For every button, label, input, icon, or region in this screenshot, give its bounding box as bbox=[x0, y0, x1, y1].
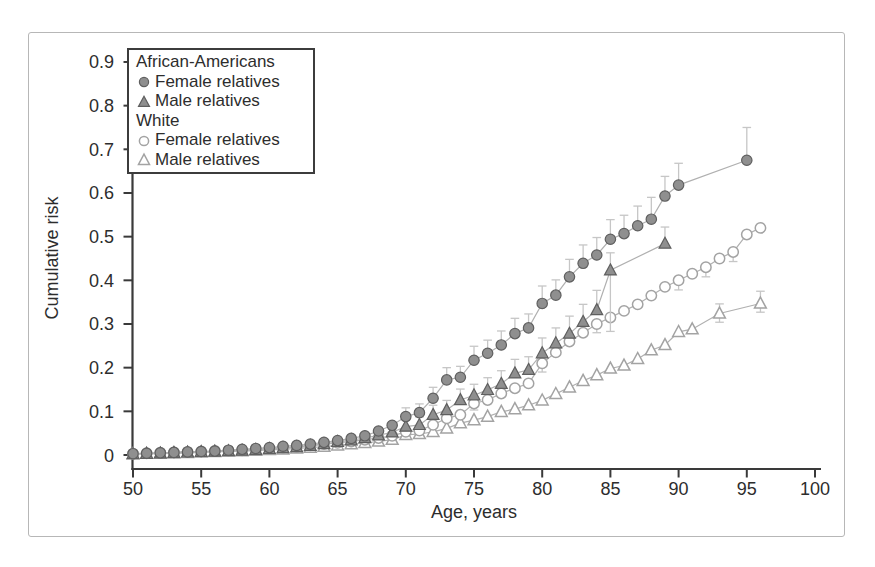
aa-female-point bbox=[742, 155, 752, 165]
aa-male-point bbox=[564, 327, 576, 338]
white-female-point bbox=[523, 378, 533, 388]
legend-item-label: Female relatives bbox=[155, 72, 280, 92]
aa-female-point bbox=[578, 258, 588, 268]
aa-female-point bbox=[469, 355, 479, 365]
white-female-point bbox=[428, 420, 438, 430]
white-female-point bbox=[728, 247, 738, 257]
white-female-point bbox=[673, 275, 683, 285]
aa-female-point bbox=[223, 445, 233, 455]
aa-female-point bbox=[169, 447, 179, 457]
aa-female-point bbox=[482, 348, 492, 358]
y-tick-label: 0.9 bbox=[89, 52, 114, 72]
aa-female-point bbox=[551, 290, 561, 300]
aa-female-point bbox=[264, 442, 274, 452]
x-tick-label: 65 bbox=[328, 479, 348, 499]
white-female-point bbox=[701, 262, 711, 272]
white-male-point bbox=[618, 359, 630, 370]
aa-female-point bbox=[632, 221, 642, 231]
white-female-point bbox=[455, 410, 465, 420]
aa-male-line bbox=[133, 244, 665, 455]
aa-female-point bbox=[291, 440, 301, 450]
aa-male-point bbox=[482, 384, 494, 395]
white-female-point bbox=[592, 319, 602, 329]
aa-female-point bbox=[332, 435, 342, 445]
white-male-point bbox=[686, 323, 698, 334]
aa-female-point bbox=[373, 426, 383, 436]
open-circle-glyph bbox=[139, 136, 148, 145]
x-tick-label: 80 bbox=[532, 479, 552, 499]
white-female-point bbox=[619, 306, 629, 316]
white-female-point bbox=[714, 253, 724, 263]
x-tick-label: 70 bbox=[396, 479, 416, 499]
aa-male-point bbox=[536, 347, 548, 358]
legend-group-header-white: White bbox=[136, 111, 311, 131]
aa-female-point bbox=[196, 446, 206, 456]
legend-item-white-female: Female relatives bbox=[136, 130, 311, 150]
x-tick-label: 75 bbox=[464, 479, 484, 499]
aa-female-point bbox=[360, 431, 370, 441]
y-tick-label: 0.8 bbox=[89, 96, 114, 116]
aa-female-point bbox=[387, 420, 397, 430]
y-tick-label: 0.5 bbox=[89, 227, 114, 247]
white-male-point bbox=[564, 381, 576, 392]
aa-female-point bbox=[128, 448, 138, 458]
aa-male-point bbox=[605, 264, 617, 275]
aa-male-point bbox=[468, 389, 480, 400]
legend: African-Americans Female relatives Male … bbox=[127, 48, 315, 174]
aa-female-point bbox=[564, 272, 574, 282]
x-tick-label: 50 bbox=[123, 479, 143, 499]
x-tick-label: 100 bbox=[800, 479, 830, 499]
y-tick-label: 0.3 bbox=[89, 314, 114, 334]
filled-circle-icon bbox=[136, 73, 152, 89]
white-female-point bbox=[578, 328, 588, 338]
y-tick-label: 0.7 bbox=[89, 140, 114, 160]
white-male-point bbox=[755, 297, 767, 308]
legend-item-label: Male relatives bbox=[155, 91, 260, 111]
aa-female-point bbox=[319, 437, 329, 447]
open-triangle-glyph bbox=[139, 154, 150, 164]
aa-female-point bbox=[619, 228, 629, 238]
aa-female-point bbox=[182, 447, 192, 457]
filled-circle-glyph bbox=[139, 78, 148, 87]
aa-female-point bbox=[141, 448, 151, 458]
aa-female-point bbox=[455, 372, 465, 382]
white-female-point bbox=[551, 347, 561, 357]
legend-group-header-african-americans: African-Americans bbox=[136, 52, 311, 72]
aa-female-point bbox=[428, 393, 438, 403]
white-female-point bbox=[646, 290, 656, 300]
aa-female-point bbox=[496, 340, 506, 350]
open-circle-icon bbox=[136, 132, 152, 148]
aa-female-point bbox=[442, 375, 452, 385]
filled-triangle-icon bbox=[136, 93, 152, 109]
open-triangle-icon bbox=[136, 151, 152, 167]
aa-female-point bbox=[210, 446, 220, 456]
white-female-point bbox=[632, 299, 642, 309]
y-tick-label: 0.2 bbox=[89, 358, 114, 378]
x-tick-label: 95 bbox=[737, 479, 757, 499]
x-tick-label: 85 bbox=[600, 479, 620, 499]
legend-item-white-male: Male relatives bbox=[136, 150, 311, 170]
white-female-point bbox=[496, 388, 506, 398]
white-male-point bbox=[591, 369, 603, 380]
y-tick-label: 0.6 bbox=[89, 183, 114, 203]
aa-female-point bbox=[155, 448, 165, 458]
white-female-point bbox=[742, 229, 752, 239]
white-male-point bbox=[536, 394, 548, 405]
aa-female-point bbox=[660, 191, 670, 201]
aa-female-point bbox=[510, 328, 520, 338]
x-tick-label: 90 bbox=[669, 479, 689, 499]
y-tick-label: 0.4 bbox=[89, 271, 114, 291]
white-female-point bbox=[660, 282, 670, 292]
figure-panel: 5055606570758085909510000.10.20.30.40.50… bbox=[0, 0, 875, 567]
white-male-point bbox=[577, 374, 589, 385]
aa-female-point bbox=[523, 323, 533, 333]
aa-female-point bbox=[401, 411, 411, 421]
x-tick-label: 60 bbox=[259, 479, 279, 499]
aa-male-point bbox=[495, 377, 507, 388]
y-tick-label: 0.1 bbox=[89, 402, 114, 422]
aa-male-point bbox=[659, 237, 671, 248]
legend-item-aa-female: Female relatives bbox=[136, 72, 311, 92]
aa-male-point bbox=[577, 315, 589, 326]
aa-female-point bbox=[305, 439, 315, 449]
aa-female-point bbox=[605, 234, 615, 244]
